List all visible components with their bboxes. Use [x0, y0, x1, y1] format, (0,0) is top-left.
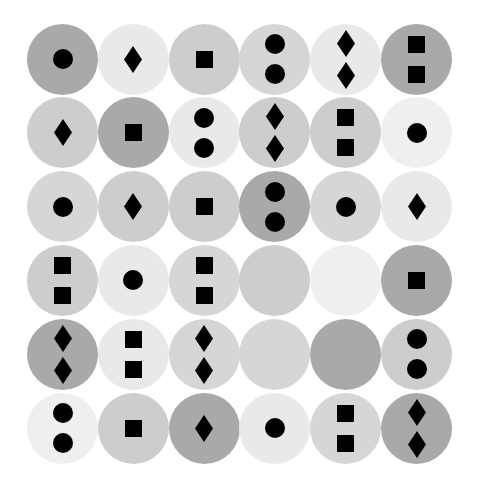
circle-icon [265, 34, 285, 54]
circle-icon [194, 138, 214, 158]
grid-cell-r3-c1 [27, 171, 98, 242]
grid-cell-r1-c4 [239, 24, 310, 95]
circle-icon [265, 64, 285, 84]
grid-cell-r6-c1 [27, 393, 98, 464]
square-icon [125, 124, 142, 141]
grid-cell-r5-c6 [381, 319, 452, 390]
circle-icon [265, 418, 285, 438]
diamond-icon [266, 103, 284, 130]
grid-cell-r6-c3 [169, 393, 240, 464]
square-icon [54, 287, 71, 304]
grid-cell-r4-c6 [381, 245, 452, 316]
square-icon [196, 287, 213, 304]
square-icon [196, 51, 213, 68]
grid-cell-r3-c3 [169, 171, 240, 242]
diamond-icon [54, 119, 72, 146]
diamond-icon [195, 357, 213, 384]
diamond-icon [337, 30, 355, 57]
grid-cell-r3-c5 [310, 171, 381, 242]
diamond-icon [408, 399, 426, 426]
grid-cell-r3-c4 [239, 171, 310, 242]
diamond-icon [54, 325, 72, 352]
grid-cell-r2-c1 [27, 97, 98, 168]
grid-cell-r2-c3 [169, 97, 240, 168]
square-icon [337, 139, 354, 156]
grid-cell-r5-c3 [169, 319, 240, 390]
circle-icon [336, 197, 356, 217]
square-icon [408, 66, 425, 83]
circle-icon [53, 197, 73, 217]
diamond-icon [195, 415, 213, 442]
grid-cell-r2-c4 [239, 97, 310, 168]
grid-cell-r4-c4 [239, 245, 310, 316]
grid-cell-r4-c2 [98, 245, 169, 316]
circle-icon [53, 433, 73, 453]
grid-cell-r4-c1 [27, 245, 98, 316]
circle-icon [265, 212, 285, 232]
grid-cell-r6-c6 [381, 393, 452, 464]
square-icon [408, 36, 425, 53]
grid-cell-r5-c4 [239, 319, 310, 390]
grid-cell-r6-c4 [239, 393, 310, 464]
square-icon [196, 198, 213, 215]
square-icon [337, 435, 354, 452]
circle-icon [407, 329, 427, 349]
square-icon [337, 405, 354, 422]
square-icon [125, 331, 142, 348]
circle-icon [265, 182, 285, 202]
circle-icon [53, 403, 73, 423]
shape-matrix-grid [0, 0, 478, 486]
diamond-icon [124, 46, 142, 73]
diamond-icon [124, 193, 142, 220]
square-icon [54, 257, 71, 274]
circle-icon [53, 49, 73, 69]
grid-cell-r5-c5 [310, 319, 381, 390]
diamond-icon [54, 357, 72, 384]
grid-cell-r3-c6 [381, 171, 452, 242]
diamond-icon [266, 135, 284, 162]
grid-cell-r1-c1 [27, 24, 98, 95]
square-icon [408, 272, 425, 289]
grid-cell-r4-c5 [310, 245, 381, 316]
grid-cell-r3-c2 [98, 171, 169, 242]
grid-cell-r1-c2 [98, 24, 169, 95]
circle-icon [123, 270, 143, 290]
grid-cell-r6-c5 [310, 393, 381, 464]
grid-cell-r2-c2 [98, 97, 169, 168]
circle-icon [194, 108, 214, 128]
diamond-icon [408, 431, 426, 458]
grid-cell-r1-c5 [310, 24, 381, 95]
grid-cell-r5-c2 [98, 319, 169, 390]
diamond-icon [195, 325, 213, 352]
square-icon [125, 361, 142, 378]
square-icon [125, 420, 142, 437]
grid-cell-r4-c3 [169, 245, 240, 316]
grid-cell-r1-c3 [169, 24, 240, 95]
grid-cell-r1-c6 [381, 24, 452, 95]
diamond-icon [337, 62, 355, 89]
grid-cell-r6-c2 [98, 393, 169, 464]
diamond-icon [408, 193, 426, 220]
grid-cell-r2-c6 [381, 97, 452, 168]
grid-cell-r2-c5 [310, 97, 381, 168]
circle-icon [407, 123, 427, 143]
circle-icon [407, 359, 427, 379]
square-icon [196, 257, 213, 274]
grid-cell-r5-c1 [27, 319, 98, 390]
square-icon [337, 109, 354, 126]
